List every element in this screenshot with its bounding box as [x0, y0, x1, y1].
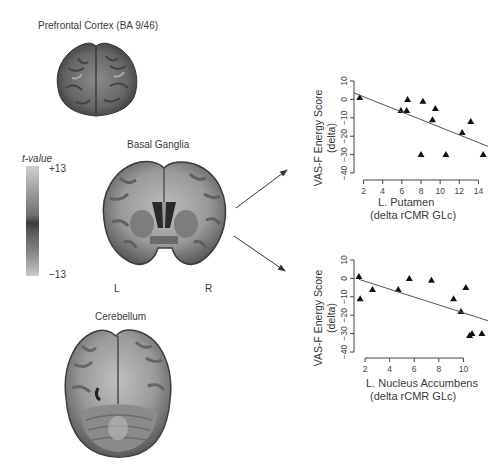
data-point-triangle [355, 273, 362, 279]
svg-text:10: 10 [339, 76, 349, 86]
data-point-triangle [462, 284, 469, 290]
data-point-triangle [480, 151, 487, 157]
svg-text:−40: −40 [339, 166, 349, 181]
accumbens-x-subtitle: (delta rCMR GLc) [370, 390, 456, 402]
svg-text:4: 4 [380, 186, 385, 196]
svg-text:8: 8 [436, 364, 441, 374]
data-point-triangle [467, 118, 474, 124]
svg-text:0: 0 [339, 276, 349, 281]
svg-text:4: 4 [387, 364, 392, 374]
data-point-triangle [459, 129, 466, 135]
data-point-triangle [403, 107, 410, 113]
putamen-x-subtitle: (delta rCMR GLc) [370, 209, 456, 221]
accumbens-x-title: L. Nucleus Accumbens [366, 377, 478, 389]
svg-text:(delta): (delta) [325, 303, 337, 333]
data-point-triangle [419, 98, 426, 104]
data-point-triangle [478, 330, 485, 336]
svg-text:0: 0 [339, 97, 349, 102]
svg-text:−30: −30 [339, 326, 349, 341]
svg-text:8: 8 [419, 186, 424, 196]
data-point-triangle [404, 96, 411, 102]
svg-text:12: 12 [455, 186, 465, 196]
data-points [355, 273, 485, 338]
data-point-triangle [429, 116, 436, 122]
arrow-to-accumbens-plot [234, 236, 285, 271]
svg-text:6: 6 [399, 186, 404, 196]
data-point-triangle [406, 275, 413, 281]
svg-text:10: 10 [339, 255, 349, 265]
svg-text:2: 2 [363, 364, 368, 374]
y-axis-title: VAS-F Energy Score (delta) [312, 270, 337, 367]
svg-text:VAS-F Energy Score: VAS-F Energy Score [312, 90, 324, 187]
svg-text:10: 10 [459, 364, 469, 374]
putamen-x-title: L. Putamen [378, 196, 434, 208]
data-point-triangle [428, 277, 435, 283]
svg-text:6: 6 [412, 364, 417, 374]
svg-text:−20: −20 [339, 308, 349, 323]
svg-text:−40: −40 [339, 345, 349, 360]
svg-text:VAS-F Energy Score: VAS-F Energy Score [312, 270, 324, 367]
data-point-triangle [357, 295, 364, 301]
svg-text:−10: −10 [339, 289, 349, 304]
svg-text:2: 2 [361, 186, 366, 196]
data-point-triangle [418, 151, 425, 157]
y-axis-title: VAS-F Energy Score (delta) [312, 90, 337, 187]
accumbens-scatter-plot: VAS-F Energy Score (delta) 100−10−20−30−… [300, 240, 499, 380]
data-points [356, 94, 486, 157]
svg-text:−10: −10 [339, 110, 349, 125]
svg-text:−20: −20 [339, 129, 349, 144]
plot-axes: 100−10−20−30−40246810 [339, 255, 468, 374]
arrow-to-putamen-plot [236, 170, 287, 208]
data-point-triangle [432, 105, 439, 111]
regression-line [359, 279, 488, 320]
svg-text:−30: −30 [339, 147, 349, 162]
data-point-triangle [442, 151, 449, 157]
data-point-triangle [450, 295, 457, 301]
data-point-triangle [369, 286, 376, 292]
regression-line [354, 93, 488, 146]
svg-text:(delta): (delta) [325, 123, 337, 153]
svg-text:14: 14 [474, 186, 484, 196]
svg-text:10: 10 [435, 186, 445, 196]
